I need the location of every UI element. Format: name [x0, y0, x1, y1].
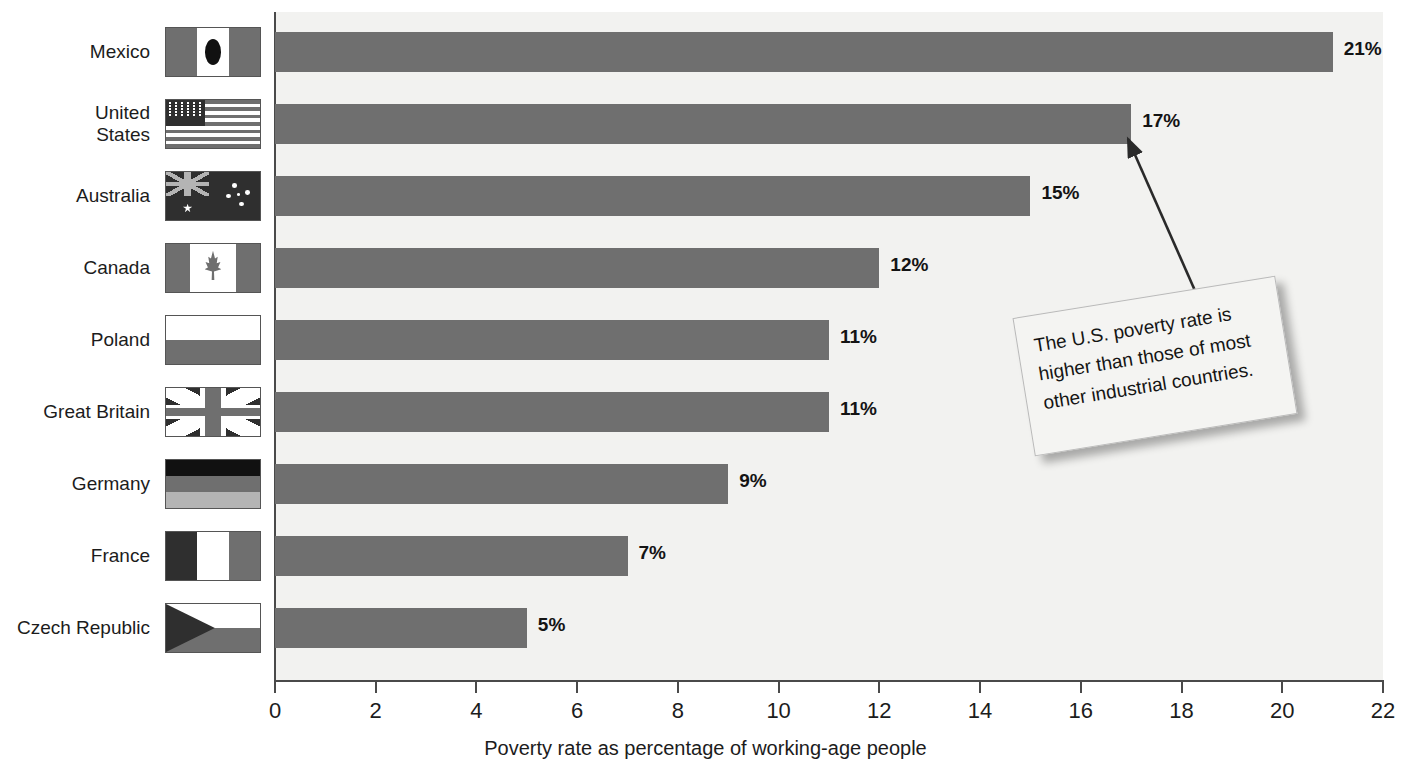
x-axis-tick-label: 22	[1371, 698, 1395, 724]
x-axis-tick-label: 10	[766, 698, 790, 724]
x-axis-tick	[1382, 681, 1384, 693]
x-axis-tick	[1281, 681, 1283, 693]
category-label: Poland	[0, 314, 150, 366]
x-axis-title: Poverty rate as percentage of working-ag…	[0, 737, 1411, 760]
flag-australia-icon	[165, 171, 261, 221]
x-axis-tick-label: 14	[968, 698, 992, 724]
bar-value-label: 12%	[890, 254, 928, 276]
x-axis-tick-label: 8	[672, 698, 684, 724]
x-axis-tick	[979, 681, 981, 693]
x-axis-tick	[475, 681, 477, 693]
bar-value-label: 9%	[739, 470, 766, 492]
category-label: Canada	[0, 242, 150, 294]
x-axis-tick-label: 12	[867, 698, 891, 724]
x-axis-tick-label: 2	[370, 698, 382, 724]
category-label: Germany	[0, 458, 150, 510]
chart-row: United States17%	[0, 98, 1411, 150]
poverty-rate-bar-chart: Mexico 21%United States17%Australia	[0, 0, 1411, 781]
flag-czech-republic-icon	[165, 603, 261, 653]
x-axis-tick	[878, 681, 880, 693]
bar	[275, 104, 1131, 144]
bar	[275, 176, 1030, 216]
flag-great-britain-icon	[165, 387, 261, 437]
flag-france-icon	[165, 531, 261, 581]
x-axis-tick	[677, 681, 679, 693]
callout-text: The U.S. poverty rate is higher than tho…	[1032, 303, 1254, 413]
chart-row: Australia 15%	[0, 170, 1411, 222]
flag-united-states-icon	[165, 99, 261, 149]
category-label: United States	[0, 98, 150, 150]
bar-value-label: 11%	[840, 326, 877, 348]
category-label: Czech Republic	[0, 602, 150, 654]
bar-value-label: 5%	[538, 614, 565, 636]
chart-row: Mexico 21%	[0, 26, 1411, 78]
x-axis-tick-label: 20	[1270, 698, 1294, 724]
bar	[275, 392, 829, 432]
bar-value-label: 15%	[1041, 182, 1079, 204]
x-axis-tick-label: 6	[571, 698, 583, 724]
x-axis-tick-label: 4	[470, 698, 482, 724]
x-axis-tick	[1080, 681, 1082, 693]
bar	[275, 248, 879, 288]
category-label: Australia	[0, 170, 150, 222]
x-axis-line	[274, 680, 1384, 682]
category-label: France	[0, 530, 150, 582]
bar	[275, 464, 728, 504]
category-label: Great Britain	[0, 386, 150, 438]
chart-row: Germany 9%	[0, 458, 1411, 510]
flag-germany-icon	[165, 459, 261, 509]
bar-value-label: 11%	[840, 398, 877, 420]
x-axis-tick-label: 16	[1069, 698, 1093, 724]
bar-value-label: 7%	[639, 542, 666, 564]
bar	[275, 608, 527, 648]
chart-row: France 7%	[0, 530, 1411, 582]
x-axis-tick	[375, 681, 377, 693]
bar-value-label: 21%	[1344, 38, 1382, 60]
category-label: Mexico	[0, 26, 150, 78]
flag-canada-icon	[165, 243, 261, 293]
bar-value-label: 17%	[1142, 110, 1180, 132]
x-axis-tick	[576, 681, 578, 693]
x-axis-tick	[1181, 681, 1183, 693]
bar	[275, 320, 829, 360]
x-axis-tick	[274, 681, 276, 693]
x-axis-tick-label: 0	[269, 698, 281, 724]
x-axis-tick	[778, 681, 780, 693]
bar	[275, 32, 1333, 72]
chart-row: Czech Republic 5%	[0, 602, 1411, 654]
bar	[275, 536, 628, 576]
x-axis-tick-label: 18	[1169, 698, 1193, 724]
flag-poland-icon	[165, 315, 261, 365]
chart-row: Canada 12%	[0, 242, 1411, 294]
flag-mexico-icon	[165, 27, 261, 77]
